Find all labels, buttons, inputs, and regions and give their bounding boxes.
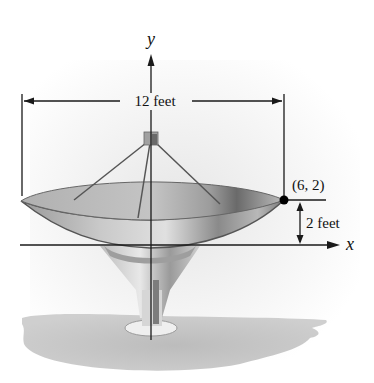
dish-stand-post-shade [153,280,159,324]
point-label: (6, 2) [292,177,325,194]
parabola-dish-diagram: 12 feet y x (6, 2) 2 feet [0,0,374,383]
depth-label: 2 feet [306,215,341,231]
x-axis-label: x [345,234,354,254]
y-axis-label: y [145,29,155,49]
ground-shadow [22,314,327,371]
point-marker [280,196,289,205]
feed-horn-shade [152,134,157,145]
width-label: 12 feet [134,93,176,109]
